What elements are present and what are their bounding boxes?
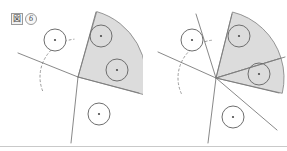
figure-label-fig6: 図 6 — [11, 13, 37, 25]
ray-lower-vertical-ray — [208, 78, 216, 143]
center-dot-circle-upper-left — [54, 39, 56, 41]
center-dot-circle-lower — [98, 113, 100, 115]
center-dot-circle-lower — [232, 116, 234, 118]
figure-canvas-fig7 — [143, 0, 287, 151]
panel-content — [18, 12, 143, 143]
shaded-sector-single-shaded-sector — [78, 12, 143, 95]
center-dot-circle-sector-lower — [258, 73, 260, 75]
figure-panel-fig7: 図 7 — [143, 0, 287, 151]
baseline-rule — [0, 146, 287, 147]
ray-lower-vertical-ray — [71, 77, 78, 143]
ray-upper-left-ray — [18, 53, 78, 77]
figure-panel-fig6: 図 6 — [0, 0, 143, 151]
center-dot-circle-sector-upper — [100, 35, 102, 37]
ray-upper-left-ray — [158, 52, 216, 78]
center-dot-circle-sector-upper — [238, 35, 240, 37]
panel-content — [158, 12, 285, 143]
figure-label-glyph: 図 — [11, 13, 23, 25]
figure-board: 図 6 図 7 — [0, 0, 287, 151]
center-dot-circle-upper-left — [191, 39, 193, 41]
center-dot-circle-sector-lower — [116, 69, 118, 71]
figure-label-number: 6 — [25, 13, 37, 25]
